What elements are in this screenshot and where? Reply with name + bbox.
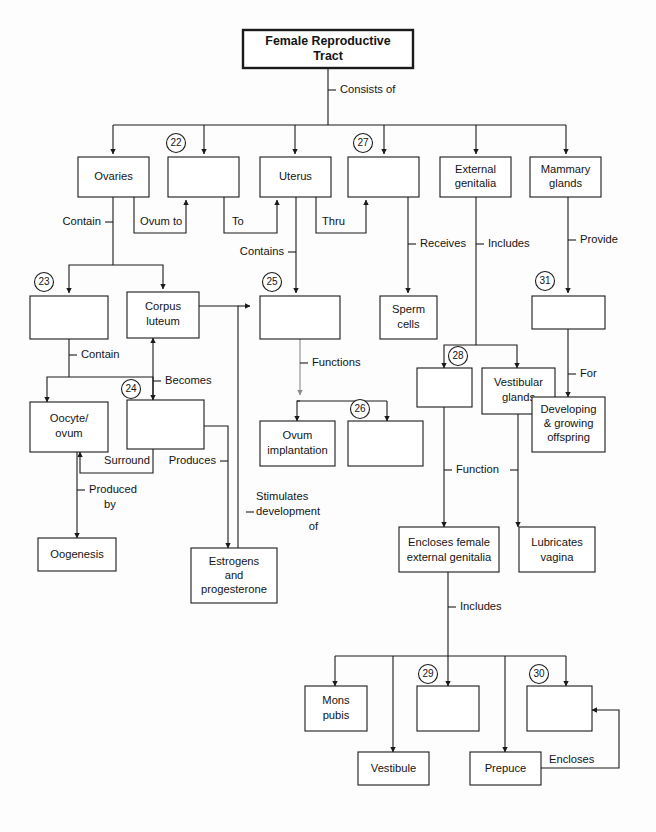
label-thru: Thru — [322, 215, 345, 227]
ref-marker-22-text: 22 — [170, 137, 182, 148]
node-blank-25[interactable] — [260, 296, 340, 339]
node-ovaries-label: Ovaries — [94, 170, 133, 182]
node-lubricates-line2: vagina — [541, 551, 575, 563]
label-includes-1: Includes — [476, 237, 530, 249]
node-title[interactable]: Female Reproductive Tract — [243, 30, 413, 68]
ref-marker-30-text: 30 — [533, 668, 545, 679]
edge-ovaries-to-corpus — [113, 265, 163, 289]
node-encloses-female-external-genitalia[interactable]: Encloses female external genitalia — [399, 527, 499, 572]
label-for: For — [568, 367, 597, 379]
node-blank-24[interactable] — [127, 400, 204, 449]
node-ovum-implantation-line2: implantation — [267, 444, 327, 456]
node-uterus-label: Uterus — [279, 170, 312, 182]
label-includes-1-text: Includes — [488, 237, 530, 249]
node-mammary-glands-line1: Mammary — [541, 163, 591, 175]
label-stimulates-line2: development — [256, 505, 321, 517]
node-mammary-glands[interactable]: Mammary glands — [530, 157, 601, 197]
label-provide: Provide — [568, 233, 618, 245]
node-blank-28[interactable] — [417, 368, 472, 407]
ref-marker-31: 31 — [536, 272, 555, 291]
label-produced-by-line1: Produced — [89, 483, 137, 495]
node-prepuce[interactable]: Prepuce — [470, 752, 541, 785]
node-blank-31[interactable] — [532, 296, 605, 329]
label-receives: Receives — [408, 237, 466, 249]
label-function-text: Function — [456, 463, 499, 475]
ref-marker-23: 23 — [35, 273, 54, 292]
node-oocyte-ovum-line2: ovum — [55, 427, 82, 439]
label-receives-text: Receives — [420, 237, 466, 249]
label-produced-by-line2: by — [104, 498, 116, 510]
node-title-line2: Tract — [313, 49, 343, 63]
node-estrogens-line1: Estrogens — [209, 555, 260, 567]
node-ovum-implantation-line1: Ovum — [283, 429, 313, 441]
edge-functions-to-ovumimp — [297, 401, 300, 421]
node-blank-27[interactable] — [348, 157, 419, 197]
node-vestibular-glands-line2: glands — [502, 391, 535, 403]
node-external-genitalia-line1: External — [455, 163, 496, 175]
node-ovaries[interactable]: Ovaries — [78, 157, 149, 197]
node-blank-29[interactable] — [417, 686, 479, 731]
label-encloses: Encloses — [549, 753, 595, 765]
label-produces-text: Produces — [169, 454, 217, 466]
ref-marker-27: 27 — [354, 134, 373, 153]
node-mons-pubis-line2: pubis — [323, 709, 350, 721]
node-oogenesis[interactable]: Oogenesis — [38, 538, 116, 571]
node-encloses-line1: Encloses female — [408, 536, 490, 548]
label-thru-text: Thru — [322, 215, 345, 227]
node-prepuce-label: Prepuce — [485, 762, 527, 774]
ref-marker-25-text: 25 — [266, 276, 278, 287]
node-sperm-cells[interactable]: Sperm cells — [380, 296, 437, 339]
label-function: Function — [444, 463, 518, 475]
node-oogenesis-label: Oogenesis — [50, 548, 104, 560]
node-external-genitalia-line2: genitalia — [455, 177, 497, 189]
label-includes-2-text: Includes — [460, 600, 502, 612]
edge-blank24-produces — [204, 426, 228, 548]
ref-marker-24: 24 — [122, 380, 141, 399]
ref-marker-26: 26 — [351, 400, 370, 419]
node-blank-23[interactable] — [30, 296, 108, 339]
node-oocyte-ovum[interactable]: Oocyte/ ovum — [30, 402, 108, 452]
label-consists-of-text: Consists of — [340, 83, 396, 95]
node-blank-30[interactable] — [527, 686, 592, 731]
label-surround-text: Surround — [104, 454, 150, 466]
label-functions-text: Functions — [312, 356, 361, 368]
node-sperm-cells-line1: Sperm — [392, 303, 425, 315]
label-produced-by: Produced by — [77, 483, 137, 510]
ref-marker-31-text: 31 — [539, 275, 551, 286]
node-sperm-cells-line2: cells — [397, 318, 420, 330]
label-stimulates-line3: of — [309, 520, 319, 532]
node-external-genitalia[interactable]: External genitalia — [440, 157, 511, 197]
label-ovum-to-text: Ovum to — [140, 215, 182, 227]
label-contain-1: Contain — [62, 215, 113, 227]
node-blank-26[interactable] — [348, 421, 423, 466]
node-blank-22[interactable] — [168, 157, 239, 197]
nodes: Female Reproductive Tract Ovaries Uterus… — [30, 30, 605, 785]
node-vestibule[interactable]: Vestibule — [358, 752, 429, 785]
node-estrogens-line3: progesterone — [201, 583, 267, 595]
node-lubricates-vagina[interactable]: Lubricates vagina — [519, 527, 595, 572]
label-for-text: For — [580, 367, 597, 379]
ref-marker-25: 25 — [263, 273, 282, 292]
node-corpus-luteum-line1: Corpus — [145, 300, 181, 312]
node-uterus[interactable]: Uterus — [260, 157, 331, 197]
node-developing-offspring-line3: offspring — [547, 431, 590, 443]
node-estrogens-progesterone[interactable]: Estrogens and progesterone — [191, 548, 277, 603]
node-corpus-luteum[interactable]: Corpus luteum — [127, 292, 199, 338]
edge-blank23-to-oocyte — [47, 377, 69, 402]
node-mons-pubis-line1: Mons — [322, 694, 350, 706]
label-becomes: Becomes — [153, 374, 212, 386]
label-consists-of: Consists of — [328, 83, 396, 95]
label-contains: Contains — [240, 245, 296, 257]
node-vestibular-glands-line1: Vestibular — [494, 376, 543, 388]
label-provide-text: Provide — [580, 233, 618, 245]
label-functions: Functions — [300, 356, 361, 368]
node-mons-pubis[interactable]: Mons pubis — [305, 686, 367, 731]
label-to: To — [232, 215, 244, 227]
ref-marker-23-text: 23 — [38, 276, 50, 287]
node-developing-offspring[interactable]: Developing & growing offspring — [532, 397, 605, 452]
label-contain-1-text: Contain — [62, 215, 101, 227]
node-mammary-glands-line2: glands — [549, 177, 582, 189]
node-ovum-implantation[interactable]: Ovum implantation — [260, 421, 335, 466]
node-vestibule-label: Vestibule — [371, 762, 416, 774]
node-estrogens-line2: and — [225, 569, 244, 581]
